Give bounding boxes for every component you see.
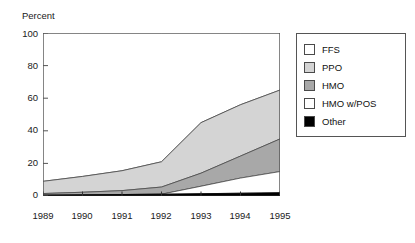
legend-swatch-ffs-icon — [304, 44, 315, 55]
x-tick-label-1991: 1991 — [104, 211, 140, 221]
y-tick-label-20: 20 — [12, 158, 38, 168]
x-tick-label-1992: 1992 — [143, 211, 179, 221]
legend-item-hmo-wpos: HMO w/POS — [304, 94, 405, 112]
y-tick-label-100: 100 — [12, 29, 38, 39]
legend-swatch-hmo-icon — [304, 80, 315, 91]
legend-swatch-ppo-icon — [304, 62, 315, 73]
legend-label-hmo-wpos: HMO w/POS — [322, 98, 376, 109]
legend-item-hmo: HMO — [304, 76, 405, 94]
legend-label-ppo: PPO — [322, 62, 342, 73]
legend-swatch-other-icon — [304, 116, 315, 127]
y-tick-label-60: 60 — [12, 93, 38, 103]
chart-figure: Percent 100 80 60 40 20 0 1989 1990 1991… — [0, 0, 415, 243]
y-tick-label-40: 40 — [12, 125, 38, 135]
x-tick-label-1994: 1994 — [222, 211, 258, 221]
x-tick-label-1989: 1989 — [25, 211, 61, 221]
legend-item-other: Other — [304, 112, 405, 130]
y-axis-title: Percent — [22, 10, 55, 21]
x-tick-label-1993: 1993 — [183, 211, 219, 221]
plot-area — [43, 33, 280, 196]
y-tick-label-0: 0 — [12, 190, 38, 200]
legend-item-ffs: FFS — [304, 40, 405, 58]
area-series-group — [43, 33, 280, 196]
legend-label-ffs: FFS — [322, 44, 340, 55]
legend-label-hmo: HMO — [322, 80, 344, 91]
legend-item-ppo: PPO — [304, 58, 405, 76]
legend-label-other: Other — [322, 116, 346, 127]
chart-legend: FFS PPO HMO HMO w/POS Other — [296, 33, 406, 137]
x-tick-label-1990: 1990 — [64, 211, 100, 221]
stacked-area-plot — [43, 33, 280, 196]
legend-swatch-hmo-wpos-icon — [304, 98, 315, 109]
y-tick-label-80: 80 — [12, 61, 38, 71]
x-tick-label-1995: 1995 — [262, 211, 298, 221]
